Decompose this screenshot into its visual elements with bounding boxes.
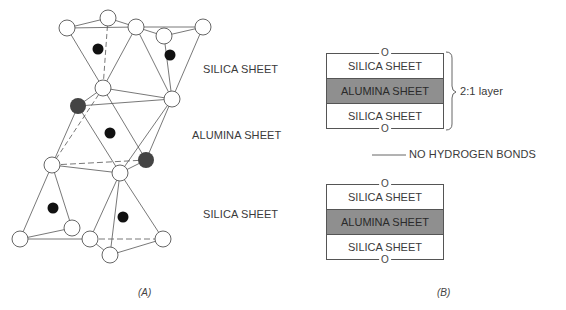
interlayer-label: NO HYDROGEN BONDS — [409, 148, 536, 160]
bracket-label: 2:1 layer — [460, 85, 503, 97]
lower-alumina-sheet: ALUMINA SHEET — [327, 209, 443, 235]
caption-b: (B) — [437, 287, 450, 298]
lower-2-1-layer: O SILICA SHEET ALUMINA SHEET SILICA SHEE… — [326, 184, 444, 260]
oxygen-marker-bottom: O — [379, 255, 391, 265]
oxygen-marker-top: O — [379, 179, 391, 189]
